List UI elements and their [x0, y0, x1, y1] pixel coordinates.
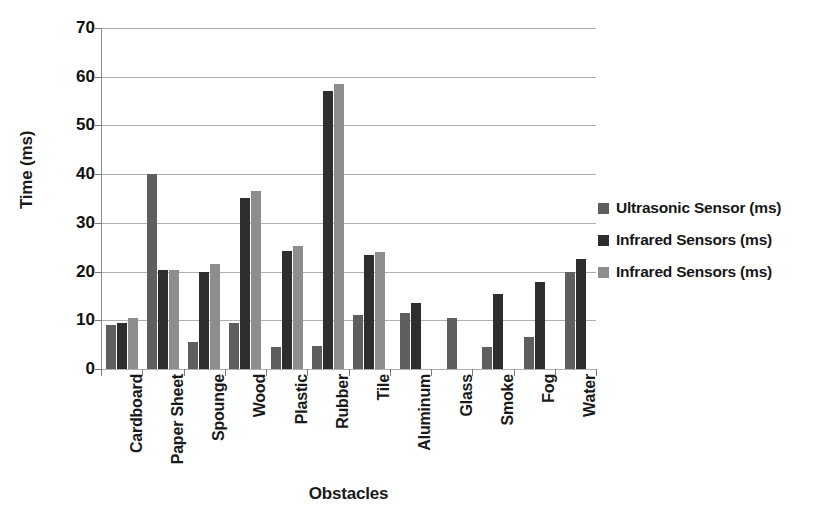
legend-swatch-icon — [598, 235, 609, 246]
y-axis-tickmark — [95, 320, 102, 321]
bar — [158, 270, 168, 369]
x-axis-tickmark — [349, 369, 350, 376]
bar — [117, 323, 127, 369]
y-axis-tick-label: 30 — [55, 213, 95, 233]
bar — [535, 282, 545, 369]
bar — [240, 198, 250, 369]
legend-swatch-icon — [598, 267, 609, 278]
x-axis-category-label: Water — [581, 374, 599, 417]
bars-layer — [101, 28, 596, 369]
bar — [128, 318, 138, 369]
x-axis-tickmark — [142, 369, 143, 376]
bar — [323, 91, 333, 369]
bar — [447, 318, 457, 369]
x-axis-tickmark — [514, 369, 515, 376]
bar — [293, 246, 303, 369]
x-axis-category-label: Plastic — [293, 374, 311, 424]
bar — [334, 84, 344, 369]
bar — [229, 323, 239, 369]
bar — [524, 337, 534, 369]
bar — [565, 272, 575, 369]
x-axis-title: Obstacles — [101, 484, 596, 504]
y-axis-tick-labels: 010203040506070 — [55, 28, 95, 369]
y-axis-tick-label: 10 — [55, 310, 95, 330]
y-axis-tickmark — [95, 28, 102, 29]
x-axis-tickmark — [431, 369, 432, 376]
y-axis-title: Time (ms) — [17, 100, 37, 240]
bar — [411, 303, 421, 369]
bar — [169, 270, 179, 369]
bar — [106, 325, 116, 369]
bar — [400, 313, 410, 369]
legend-swatch-icon — [598, 203, 609, 214]
bar-group — [266, 28, 307, 369]
bar — [375, 252, 385, 369]
y-axis-tick-label: 50 — [55, 115, 95, 135]
x-axis-category-label: Aluminum — [416, 374, 434, 451]
y-axis-tick-label: 0 — [55, 359, 95, 379]
bar-group — [514, 28, 555, 369]
x-axis-category-label: Paper Sheet — [169, 374, 187, 464]
bar — [482, 347, 492, 369]
legend-item[interactable]: Ultrasonic Sensor (ms) — [598, 192, 781, 224]
x-axis-category-labels: CardboardPaper SheetSpoungeWoodPlasticRu… — [101, 374, 596, 474]
bar-group — [307, 28, 348, 369]
bar-group — [555, 28, 596, 369]
x-axis-tickmark — [266, 369, 267, 376]
x-axis-category-label: Spounge — [210, 374, 228, 441]
y-axis-tick-label: 20 — [55, 262, 95, 282]
x-axis-category-label: Cardboard — [128, 374, 146, 453]
bar-group — [142, 28, 183, 369]
x-axis-tickmark — [101, 369, 102, 376]
chart-legend: Ultrasonic Sensor (ms)Infrared Sensors (… — [598, 192, 781, 288]
legend-label: Infrared Sensors (ms) — [616, 263, 772, 281]
x-axis-tickmark — [307, 369, 308, 376]
x-axis-category-label: Glass — [458, 374, 476, 417]
y-axis-tick-label: 40 — [55, 164, 95, 184]
x-axis-category-label: Wood — [251, 374, 269, 417]
x-axis-category-label: Fog — [540, 374, 558, 403]
x-axis-tickmark — [555, 369, 556, 376]
x-axis-tickmark — [184, 369, 185, 376]
bar — [493, 294, 503, 370]
x-axis-category-label: Rubber — [334, 374, 352, 429]
bar — [282, 251, 292, 369]
y-axis-tickmark — [95, 272, 102, 273]
legend-item[interactable]: Infrared Sensors (ms) — [598, 224, 781, 256]
x-axis-category-label: Tile — [375, 374, 393, 400]
bar-group — [225, 28, 266, 369]
bar — [251, 191, 261, 369]
x-axis-tickmark — [596, 369, 597, 376]
bar-group — [390, 28, 431, 369]
bar-group — [349, 28, 390, 369]
bar-group — [431, 28, 472, 369]
bar — [353, 315, 363, 369]
bar — [210, 264, 220, 369]
y-axis-tick-label: 70 — [55, 18, 95, 38]
bar — [364, 255, 374, 369]
y-axis-tickmark — [95, 125, 102, 126]
x-axis-tickmark — [390, 369, 391, 376]
bar — [271, 347, 281, 369]
x-axis-category-label: Smoke — [499, 374, 517, 425]
bar — [576, 259, 586, 369]
y-axis-tickmark — [95, 77, 102, 78]
legend-item[interactable]: Infrared Sensors (ms) — [598, 256, 781, 288]
bar — [188, 342, 198, 369]
bar-group — [184, 28, 225, 369]
bar-group — [472, 28, 513, 369]
x-axis-tickmark — [225, 369, 226, 376]
bar — [199, 272, 209, 369]
y-axis-tickmark — [95, 174, 102, 175]
x-axis-tickmark — [472, 369, 473, 376]
legend-label: Ultrasonic Sensor (ms) — [616, 199, 781, 217]
bar-chart: Time (ms) 010203040506070 CardboardPaper… — [0, 0, 835, 525]
y-axis-tickmark — [95, 223, 102, 224]
y-axis-tick-label: 60 — [55, 67, 95, 87]
legend-label: Infrared Sensors (ms) — [616, 231, 772, 249]
bar — [312, 346, 322, 369]
bar — [147, 174, 157, 369]
bar-group — [101, 28, 142, 369]
